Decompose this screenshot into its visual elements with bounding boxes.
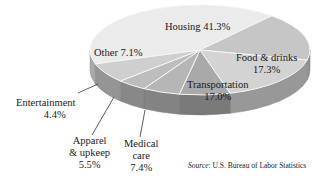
source-text: : U.S. Bureau of Labor Statistics bbox=[209, 161, 307, 170]
label-food-drinks: Food & drinks 17.3% bbox=[236, 52, 297, 76]
label-entertainment-name: Entertainment bbox=[16, 97, 75, 109]
label-transportation-value: 17.0% bbox=[187, 91, 248, 103]
source-note: Source: U.S. Bureau of Labor Statistics bbox=[188, 161, 306, 170]
label-entertainment-value: 4.4% bbox=[16, 109, 75, 121]
label-apparel-name: Apparel bbox=[69, 135, 110, 147]
leader-line-apparel bbox=[92, 97, 114, 135]
label-apparel-sub: & upkeep bbox=[69, 147, 110, 159]
label-medical: Medical care 7.4% bbox=[124, 138, 158, 174]
leader-line-entertainment bbox=[78, 84, 98, 93]
label-transportation-name: Transportation bbox=[187, 79, 248, 91]
leader-line-medical bbox=[140, 110, 145, 137]
label-food-drinks-value: 17.3% bbox=[236, 64, 297, 76]
label-transportation: Transportation 17.0% bbox=[187, 79, 248, 103]
label-entertainment: Entertainment 4.4% bbox=[16, 97, 75, 121]
source-label: Source bbox=[188, 161, 209, 170]
label-other: Other 7.1% bbox=[94, 47, 142, 59]
label-food-drinks-name: Food & drinks bbox=[236, 52, 297, 64]
label-medical-sub: care bbox=[124, 150, 158, 162]
label-medical-name: Medical bbox=[124, 138, 158, 150]
label-apparel-value: 5.5% bbox=[69, 159, 110, 171]
label-housing: Housing 41.3% bbox=[165, 21, 230, 33]
label-apparel: Apparel & upkeep 5.5% bbox=[69, 135, 110, 171]
label-medical-value: 7.4% bbox=[124, 162, 158, 174]
